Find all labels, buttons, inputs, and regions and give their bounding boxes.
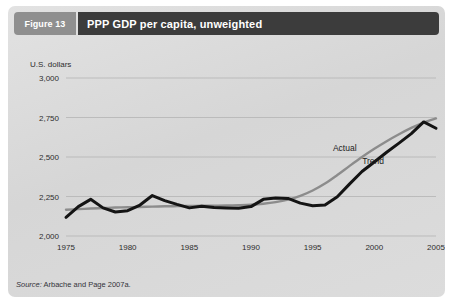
y-axis-tick-label: 2,250 — [39, 193, 60, 202]
figure-card: Figure 13 PPP GDP per capita, unweighted… — [8, 6, 445, 297]
y-axis-tick-label: 2,750 — [39, 114, 60, 123]
x-axis-tick-label: 1980 — [119, 243, 137, 252]
x-axis-tick-labels: 1975198019851990199520002005 — [57, 243, 445, 252]
figure-title-bar: PPP GDP per capita, unweighted — [78, 12, 439, 35]
y-axis-tick-label: 3,000 — [39, 74, 60, 83]
figure-header: Figure 13 PPP GDP per capita, unweighted — [14, 12, 439, 35]
series-label-actual: Actual — [333, 143, 357, 153]
source-note: Source: Arbache and Page 2007a. — [16, 280, 436, 289]
x-axis-tick-label: 1990 — [242, 243, 260, 252]
source-note-lead: Source: — [16, 280, 42, 289]
x-axis-tick-label: 2000 — [365, 243, 383, 252]
x-axis-tick-label: 1975 — [57, 243, 75, 252]
actual-line — [66, 122, 436, 217]
figure-number-label: Figure 13 — [25, 19, 66, 29]
x-axis-tick-label: 2005 — [427, 243, 445, 252]
line-chart: 3,0002,7502,5002,2502,000 19751980198519… — [8, 38, 445, 263]
figure-title: PPP GDP per capita, unweighted — [87, 18, 262, 30]
x-axis-tick-label: 1995 — [304, 243, 322, 252]
y-axis-tick-label: 2,000 — [39, 232, 60, 241]
y-axis-tick-label: 2,500 — [39, 153, 60, 162]
figure-number-badge: Figure 13 — [14, 12, 76, 35]
chart-plot-area: U.S. dollars 3,0002,7502,5002,2502,000 1… — [8, 38, 445, 263]
actual-line-series — [66, 122, 436, 217]
x-axis-tick-label: 1985 — [180, 243, 198, 252]
y-axis-tick-labels: 3,0002,7502,5002,2502,000 — [39, 74, 60, 241]
source-note-text: Arbache and Page 2007a. — [42, 280, 131, 289]
figure-footer: Source: Arbache and Page 2007a. — [16, 280, 436, 289]
series-label-trend: Trend — [362, 156, 384, 166]
